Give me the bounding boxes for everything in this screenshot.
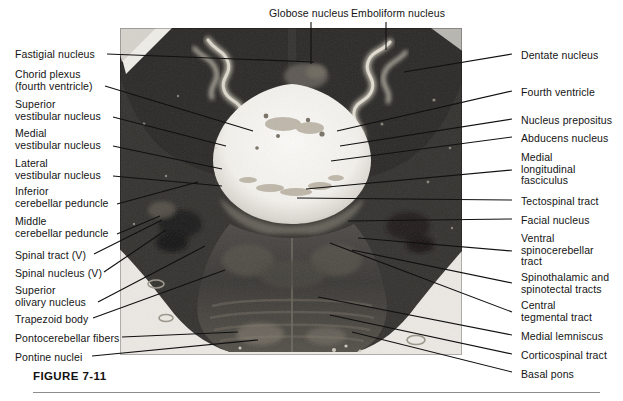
- label-middle-cerebellar-peduncle: Middle cerebellar peduncle: [15, 216, 109, 239]
- label-spinal-nucleus-v: Spinal nucleus (V): [15, 268, 102, 280]
- label-emboliform-nucleus: Emboliform nucleus: [351, 8, 445, 20]
- label-pontocerebellar-fibers: Pontocerebellar fibers: [15, 333, 119, 345]
- label-choroid-plexus: Chorid plexus (fourth ventricle): [15, 69, 93, 92]
- label-fourth-ventricle: Fourth ventricle: [521, 87, 595, 99]
- label-ventral-spinocerebellar-tract: Ventral spinocerebellar tract: [521, 233, 594, 268]
- figure-caption: FIGURE 7-11: [33, 370, 106, 382]
- label-medial-longitudinal-fasciculus: Medial longitudinal fasciculus: [521, 152, 575, 187]
- label-central-tegmental-tract: Central tegmental tract: [521, 300, 592, 323]
- label-pontine-nuclei: Pontine nuclei: [15, 352, 82, 364]
- label-fastigial-nucleus: Fastigial nucleus: [15, 49, 95, 61]
- label-inferior-cerebellar-peduncle: Inferior cerebellar peduncle: [15, 186, 109, 209]
- label-globose-nucleus: Globose nucleus: [269, 8, 349, 20]
- caption-divider: [33, 392, 600, 393]
- label-nucleus-prepositus: Nucleus prepositus: [521, 115, 612, 127]
- label-corticospinal-tract: Corticospinal tract: [521, 350, 607, 362]
- label-abducens-nucleus: Abducens nucleus: [521, 133, 608, 145]
- label-superior-olivary-nucleus: Superior olivary nucleus: [15, 285, 86, 308]
- label-spinothalamic-spinotectal-tracts: Spinothalamic and spinotectal tracts: [521, 272, 609, 295]
- label-superior-vestibular-nucleus: Superior vestibular nucleus: [15, 99, 101, 122]
- label-medial-lemniscus: Medial lemniscus: [521, 331, 603, 343]
- histology-plate: [120, 28, 462, 355]
- label-basal-pons: Basal pons: [521, 369, 574, 381]
- label-spinal-tract-v: Spinal tract (V): [15, 250, 86, 262]
- label-dentate-nucleus: Dentate nucleus: [521, 50, 598, 62]
- label-tectospinal-tract: Tectospinal tract: [521, 196, 599, 208]
- label-lateral-vestibular-nucleus: Lateral vestibular nucleus: [15, 158, 101, 181]
- figure-container: Globose nucleusEmboliform nucleusFastigi…: [0, 0, 623, 401]
- label-medial-vestibular-nucleus: Medial vestibular nucleus: [15, 128, 101, 151]
- label-trapezoid-body: Trapezoid body: [15, 314, 88, 326]
- label-facial-nucleus: Facial nucleus: [521, 215, 590, 227]
